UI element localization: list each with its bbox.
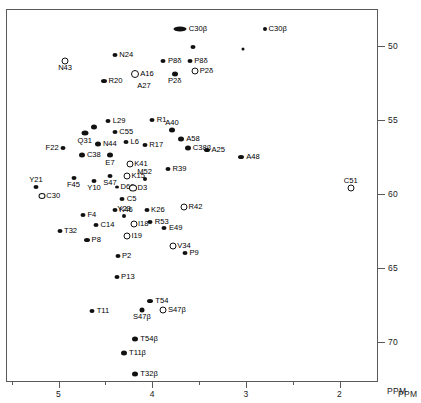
y-tick-label: 55 [388, 115, 398, 125]
x-tick-minor [199, 382, 200, 385]
peak-label: L29 [113, 118, 126, 126]
peak-marker [91, 125, 97, 130]
peak-label: E49 [169, 224, 183, 232]
peak-marker [95, 141, 101, 146]
peak-marker [84, 238, 90, 242]
peak-label: P2δ [168, 77, 182, 85]
peak-marker [126, 161, 133, 168]
peak-label: I19 [131, 232, 142, 240]
peak-marker [242, 47, 245, 50]
peak-marker [101, 79, 107, 83]
peak-marker [114, 275, 119, 279]
x-tick-minor [293, 382, 294, 385]
peak-label: R17 [149, 141, 163, 149]
peak-marker [150, 118, 155, 122]
peak-marker [131, 70, 139, 78]
peak-label: N24 [119, 51, 133, 59]
peak-label: L6 [131, 138, 139, 146]
x-tick-mark [246, 382, 247, 388]
peak-marker [115, 185, 119, 188]
peak-marker [169, 243, 176, 250]
y-tick-mark [378, 46, 385, 47]
peak-label: F22 [46, 144, 59, 152]
peak-label: Y21 [29, 176, 43, 184]
peak-marker [183, 251, 188, 255]
peak-label: C5 [127, 195, 137, 203]
peak-marker [90, 309, 95, 313]
peak-marker [130, 220, 137, 227]
peak-label: Y10 [87, 184, 101, 192]
plot-frame-right [377, 9, 378, 382]
peak-label: I18 [138, 220, 149, 228]
peak-label: P9 [190, 250, 199, 258]
peak-marker [61, 146, 66, 150]
peak-label: N44 [103, 140, 117, 148]
peak-marker [124, 140, 129, 144]
peak-marker [147, 299, 153, 303]
plot-frame-top [6, 9, 378, 10]
x-tick-mark [59, 382, 60, 388]
peak-label: A48 [246, 153, 260, 161]
x-tick-label: 3 [243, 389, 248, 399]
y-tick-label: 60 [388, 189, 398, 199]
peak-label: E7 [105, 159, 114, 167]
peak-label: P2 [122, 253, 131, 261]
x-tick-minor [12, 382, 13, 385]
plot-frame-bottom [6, 381, 378, 382]
peak-label: C55 [119, 128, 133, 136]
peak-label: R42 [189, 204, 203, 212]
peak-marker [112, 130, 117, 134]
y-tick-label: 70 [388, 337, 398, 347]
peak-marker [132, 371, 138, 376]
peak-label: M52 [137, 169, 152, 177]
peak-label: S47β [133, 313, 151, 321]
peak-label: F45 [67, 181, 80, 189]
peak-marker [121, 350, 127, 355]
peak-marker [79, 153, 85, 158]
y-tick-mark [378, 342, 385, 343]
peak-marker [191, 45, 196, 49]
x-tick-label: 4 [150, 389, 155, 399]
peak-marker [160, 306, 167, 313]
x-tick-minor [105, 382, 106, 385]
plot-frame-left [6, 9, 7, 382]
peak-marker [38, 193, 45, 199]
peak-label: P13 [121, 273, 135, 281]
peak-label: C30 [46, 192, 60, 200]
peak-marker [144, 208, 149, 212]
y-tick-label: 50 [388, 41, 398, 51]
y-tick-label: 65 [388, 263, 398, 273]
peak-label: T11 [97, 308, 110, 316]
peak-label: T54β [140, 336, 157, 344]
peak-marker [178, 137, 184, 142]
peak-label: A27 [137, 82, 151, 90]
peak-marker [120, 197, 125, 201]
x-tick-label: 2 [337, 389, 342, 399]
peak-marker [123, 232, 130, 239]
peak-marker [123, 173, 130, 180]
peak-marker [238, 155, 244, 159]
x-tick-mark [152, 382, 153, 388]
peak-label: R39 [173, 165, 187, 173]
peak-label: C38 [87, 152, 101, 160]
peak-label: T32β [140, 370, 157, 378]
peak-label: N43 [58, 64, 72, 72]
peak-marker [94, 223, 99, 227]
nmr-spectrum-plot: 5055606570 5432 C30βC30βN43N24P8δP8δP2δP… [0, 0, 421, 403]
peak-marker [132, 337, 138, 342]
peak-label: K26 [151, 207, 165, 215]
peak-marker [129, 185, 137, 192]
peak-label: C30β [189, 26, 207, 34]
peak-label: T32 [64, 227, 77, 235]
y-tick-mark [378, 194, 385, 195]
peak-marker [57, 229, 62, 233]
x-axis-title: PPM [398, 389, 417, 399]
peak-marker [187, 59, 192, 63]
peak-marker [204, 148, 210, 152]
peak-label: T54 [155, 297, 168, 305]
peak-label: A58 [186, 135, 200, 143]
peak-label: R20 [109, 77, 123, 85]
peak-marker [166, 167, 171, 171]
peak-label: A16 [140, 70, 154, 78]
peak-marker [263, 27, 267, 31]
